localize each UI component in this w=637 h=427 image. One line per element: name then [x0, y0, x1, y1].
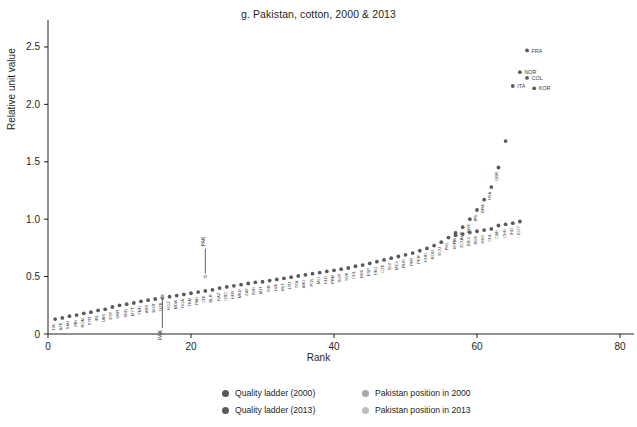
svg-text:TJK: TJK [51, 323, 56, 331]
svg-text:RUS: RUS [473, 236, 478, 245]
chart-container: g. Pakistan, cotton, 2000 & 2013 Relativ… [0, 0, 637, 427]
svg-text:MYT: MYT [130, 307, 135, 316]
legend-item-quality-ladder-2000: Quality ladder (2000) [222, 389, 362, 398]
legend-marker-pakistan-2000 [362, 390, 369, 397]
svg-text:KOR: KOR [539, 85, 551, 91]
svg-text:HRV: HRV [230, 290, 235, 299]
svg-text:NLD: NLD [323, 276, 328, 284]
svg-text:ROM: ROM [80, 317, 85, 327]
svg-text:BRA: BRA [480, 204, 485, 213]
scatter-plot: 00.51.01.52.02.5020406080TJKAZESAUIRNROM… [0, 0, 637, 427]
svg-text:CZE: CZE [380, 264, 385, 272]
chart-legend: Quality ladder (2000) Pakistan position … [222, 385, 552, 421]
svg-text:SGP: SGP [337, 273, 342, 282]
legend-marker-quality-ladder-2013 [222, 407, 229, 414]
svg-text:MEX: MEX [466, 237, 471, 246]
svg-text:MKD: MKD [237, 289, 242, 298]
svg-text:PAK: PAK [157, 330, 163, 341]
svg-text:LVA: LVA [273, 284, 278, 291]
svg-text:IND: IND [509, 228, 514, 235]
svg-text:PER: PER [416, 255, 421, 263]
svg-text:2.0: 2.0 [26, 99, 40, 110]
svg-text:PAK: PAK [200, 236, 206, 247]
svg-text:EST: EST [108, 311, 113, 319]
legend-label-quality-ladder-2000: Quality ladder (2000) [235, 389, 315, 398]
svg-text:LTU: LTU [287, 282, 292, 289]
svg-text:PHL: PHL [444, 241, 449, 250]
svg-text:TKM: TKM [187, 297, 192, 306]
svg-text:MLI: MLI [316, 277, 321, 284]
svg-text:BLR: BLR [208, 294, 213, 302]
svg-text:YMN: YMN [137, 306, 142, 315]
svg-text:MEX: MEX [394, 261, 399, 270]
svg-text:CRI: CRI [201, 296, 206, 303]
svg-text:IRL: IRL [94, 314, 99, 321]
svg-text:CHL: CHL [351, 270, 356, 279]
legend-row-1: Quality ladder (2000) Pakistan position … [222, 385, 552, 402]
svg-text:SAU: SAU [65, 321, 70, 329]
svg-text:MLT: MLT [280, 282, 285, 290]
svg-text:CHL: CHL [487, 233, 492, 242]
svg-text:ECU: ECU [459, 239, 464, 248]
svg-text:20: 20 [185, 341, 197, 352]
svg-text:UAS: UAS [101, 314, 106, 323]
svg-text:80: 80 [614, 341, 626, 352]
svg-text:0: 0 [45, 341, 51, 352]
legend-item-quality-ladder-2013: Quality ladder (2013) [222, 406, 362, 415]
svg-text:SYR: SYR [87, 317, 92, 325]
legend-label-pakistan-2000: Pakistan position in 2000 [375, 389, 471, 398]
svg-text:DNK: DNK [359, 269, 364, 278]
legend-row-2: Quality ladder (2013) Pakistan position … [222, 402, 552, 419]
svg-text:ESP: ESP [366, 268, 371, 276]
svg-text:ECU: ECU [437, 247, 442, 256]
legend-label-pakistan-2013: Pakistan position in 2013 [375, 406, 471, 415]
svg-text:NGA: NGA [180, 299, 185, 308]
svg-text:HKG: HKG [480, 235, 485, 244]
svg-text:TZA: TZA [294, 280, 299, 288]
svg-text:CHN: CHN [502, 229, 507, 238]
svg-text:KGZ: KGZ [166, 301, 171, 310]
svg-text:POL: POL [309, 278, 314, 287]
svg-text:ZAF: ZAF [244, 288, 249, 296]
svg-text:RUS: RUS [402, 259, 407, 268]
svg-text:1.0: 1.0 [26, 214, 40, 225]
svg-text:SDN: SDN [123, 309, 128, 318]
svg-text:SLV: SLV [387, 263, 392, 271]
svg-text:ARS: ARS [144, 304, 149, 313]
svg-text:ISR: ISR [266, 285, 271, 292]
svg-text:1.5: 1.5 [26, 156, 40, 167]
svg-text:FRA: FRA [532, 48, 543, 54]
svg-text:CAN: CAN [494, 230, 499, 239]
svg-text:ITA: ITA [517, 83, 525, 89]
svg-text:HKG: HKG [373, 266, 378, 275]
svg-text:2.5: 2.5 [26, 41, 40, 52]
svg-text:AUT: AUT [259, 286, 264, 295]
svg-text:COL: COL [532, 75, 543, 81]
svg-text:PRM: PRM [330, 274, 335, 284]
svg-text:ARG: ARG [301, 279, 306, 288]
svg-text:KAZ: KAZ [216, 292, 221, 300]
legend-item-pakistan-2013: Pakistan position in 2013 [362, 406, 471, 415]
svg-text:BGR: BGR [151, 304, 156, 313]
svg-text:HUN: HUN [423, 253, 428, 262]
svg-text:PAN: PAN [194, 297, 199, 305]
svg-text:AZE: AZE [58, 322, 63, 330]
svg-text:UKR: UKR [116, 310, 121, 319]
svg-text:0.5: 0.5 [26, 271, 40, 282]
svg-text:PRT: PRT [409, 257, 414, 266]
svg-text:SVN: SVN [251, 287, 256, 295]
svg-text:JPN: JPN [473, 215, 478, 223]
legend-marker-pakistan-2013 [362, 407, 369, 414]
svg-text:MYS: MYS [452, 240, 457, 249]
svg-text:60: 60 [471, 341, 483, 352]
svg-text:40: 40 [328, 341, 340, 352]
svg-text:GRC: GRC [223, 291, 228, 300]
svg-text:MDA: MDA [173, 300, 178, 309]
svg-text:EGY: EGY [516, 226, 521, 235]
svg-text:IRN: IRN [73, 320, 78, 327]
svg-text:0: 0 [34, 329, 40, 340]
legend-item-pakistan-2000: Pakistan position in 2000 [362, 389, 471, 398]
svg-text:ROU: ROU [430, 250, 435, 259]
svg-text:GBR: GBR [494, 172, 499, 181]
legend-marker-quality-ladder-2000 [222, 390, 229, 397]
